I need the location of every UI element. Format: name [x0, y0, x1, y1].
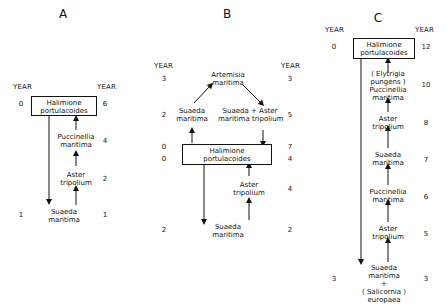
panel-a-stage-year: 4 — [98, 137, 112, 145]
species-name: portulacoides — [354, 49, 414, 57]
panel-a-bottom-year-left: 1 — [14, 211, 28, 219]
species-name: portulacoides — [183, 155, 271, 163]
panel-a-stage-puccinellia: Puccinellia maritima — [56, 133, 96, 149]
panel-b-bottom-year-right: 2 — [283, 226, 297, 234]
panel-b-right-year: 5 — [283, 111, 297, 119]
panel-c-year-header-right: YEAR — [415, 26, 434, 34]
panel-a-box-year-left: 0 — [14, 100, 28, 108]
panel-c-year-header-left: YEAR — [325, 26, 344, 34]
panel-b-box-year-left-top: 0 — [157, 143, 171, 151]
panel-b-top-year-left: 3 — [157, 75, 171, 83]
panel-c-stage-elytrigia-puccinellia: ( Elytrigia pungens ) Puccinellia mariti… — [366, 70, 410, 102]
panel-b-top-year-right: 3 — [283, 75, 297, 83]
panel-c-stage-year: 7 — [419, 156, 433, 164]
panel-c-bottom-suaeda-salicornia: Suaeda maritima + ( Salicornia ) europae… — [359, 264, 409, 304]
panel-b-box-year-left-bottom: 0 — [157, 155, 171, 163]
panel-a-year-header-right: YEAR — [97, 83, 116, 91]
panel-c-stage-aster-2: Aster tripolium — [366, 225, 410, 241]
arrow-b-artemisia-to-suaeda-aster — [243, 85, 262, 104]
panel-a-title: A — [53, 7, 73, 21]
panel-c-title: C — [368, 11, 388, 25]
species-name: Halimione — [183, 147, 271, 155]
panel-b-year-header-right: YEAR — [281, 62, 300, 70]
panel-a-bottom-year-right: 1 — [98, 211, 112, 219]
panel-c-halimione-box: Halimione portulacoides — [353, 38, 415, 59]
panel-c-stage-year: 6 — [419, 193, 433, 201]
panel-c-stage-puccinellia: Puccinellia maritima — [366, 188, 410, 204]
panel-b-bottom-suaeda: Suaeda maritima — [208, 223, 248, 239]
panel-c-bottom-year-left: 3 — [327, 275, 341, 283]
panel-c-box-year-right: 12 — [419, 43, 433, 51]
panel-b-title: B — [217, 7, 237, 21]
panel-c-stage-year: 5 — [419, 230, 433, 238]
panel-a-halimione-box: Halimione portulacoides — [31, 96, 97, 116]
species-name: Halimione — [354, 41, 414, 49]
panel-b-left-year: 2 — [157, 111, 171, 119]
panel-a-year-header-left: YEAR — [13, 83, 32, 91]
panel-b-bottom-year-left: 2 — [157, 226, 171, 234]
panel-b-left-suaeda: Suaeda maritima — [172, 107, 212, 123]
panel-a-box-year-right: 6 — [98, 100, 112, 108]
panel-a-stage-year: 2 — [98, 175, 112, 183]
panel-a-bottom-suaeda: Suaeda maritima — [44, 208, 84, 224]
panel-c-stage-suaeda: Suaeda maritima — [366, 151, 410, 167]
panel-b-box-year-right-bottom: 4 — [283, 155, 297, 163]
panel-b-right-suaeda-aster: Suaeda + Aster maritima tripolium — [218, 107, 282, 123]
panel-b-stage-year: 4 — [283, 185, 297, 193]
arrow-b-suaeda-to-artemisia — [194, 85, 211, 103]
species-name: portulacoides — [32, 107, 96, 115]
panel-a-stage-aster: Aster tripolium — [56, 171, 96, 187]
species-name: Halimione — [32, 99, 96, 107]
panel-c-stage-year: 10 — [419, 81, 433, 89]
panel-c-stage-year: 8 — [419, 119, 433, 127]
panel-c-bottom-year-right: 3 — [419, 275, 433, 283]
panel-c-stage-aster: Aster tripolium — [366, 115, 410, 131]
panel-c-box-year-left: 0 — [327, 43, 341, 51]
panel-b-box-year-right-top: 7 — [283, 143, 297, 151]
panel-b-year-header-left: YEAR — [154, 62, 173, 70]
panel-b-halimione-box: Halimione portulacoides — [182, 144, 272, 165]
panel-b-stage-aster: Aster tripolium — [229, 181, 269, 197]
panel-b-artemisia: Artemisia maritima — [208, 71, 248, 87]
